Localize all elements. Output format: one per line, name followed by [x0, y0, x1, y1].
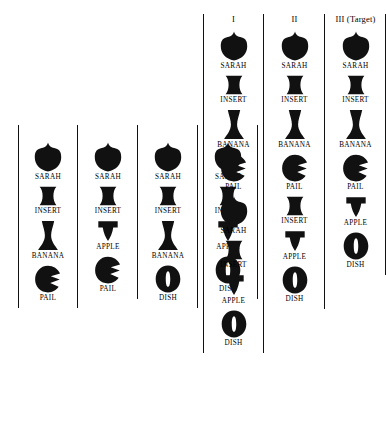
shape-item: APPLE — [91, 220, 125, 252]
shape-item: INSERT — [339, 75, 373, 105]
shape-label: PAIL — [225, 183, 242, 192]
shape-label: INSERT — [281, 96, 308, 105]
cooling-tower-vase-shape — [151, 220, 185, 251]
shape-label: BANANA — [217, 141, 250, 150]
column-items: SARAHINSERTBANANAPAIL — [31, 138, 65, 308]
shape-label: SARAH — [155, 173, 181, 182]
notched-circle-shape — [217, 154, 251, 182]
shape-item: SARAH — [339, 31, 373, 71]
shape-item: BANANA — [151, 220, 185, 261]
shape-label: SARAH — [343, 62, 369, 71]
hourglass-bowtie-shape — [339, 75, 373, 95]
shape-item: SARAH — [151, 142, 185, 182]
shape-item: PAIL — [31, 265, 65, 303]
shape-label: APPLE — [96, 243, 119, 252]
shape-label: APPLE — [222, 297, 245, 306]
notched-circle-shape — [31, 265, 65, 293]
cooling-tower-vase-shape — [278, 109, 312, 140]
shape-label: DISH — [225, 339, 243, 348]
shape-label: INSERT — [95, 207, 122, 216]
shape-label: SARAH — [221, 227, 247, 236]
shape-item: SARAH — [217, 31, 251, 71]
shape-item: DISH — [217, 310, 251, 348]
hourglass-bowtie-shape — [278, 75, 312, 95]
shape-label: APPLE — [344, 219, 367, 228]
shape-column: III (Target)SARAHINSERTBANANAPAILAPPLEDI… — [325, 14, 386, 275]
shape-item: SARAH — [278, 31, 312, 71]
column-header: I — [232, 14, 235, 27]
shape-item: APPLE — [217, 274, 251, 306]
shape-item: PAIL — [217, 154, 251, 192]
column-header: III (Target) — [335, 14, 375, 27]
notched-circle-shape — [91, 256, 125, 284]
shape-item: SARAH — [31, 142, 65, 182]
acorn-shield-shape — [217, 31, 251, 61]
shape-column: SARAHINSERTBANANADISH — [138, 125, 198, 308]
acorn-shield-shape — [151, 142, 185, 172]
shape-column: IISARAHINSERTBANANAPAILINSERTAPPLEDISH — [264, 14, 325, 309]
shape-label: PAIL — [40, 294, 57, 303]
shape-label: SARAH — [282, 62, 308, 71]
hourglass-bowtie-shape — [278, 196, 312, 216]
shape-item: DISH — [339, 232, 373, 270]
acorn-shield-shape — [91, 142, 125, 172]
hourglass-bowtie-shape — [31, 186, 65, 206]
shape-item: INSERT — [278, 75, 312, 105]
shape-label: INSERT — [342, 96, 369, 105]
shape-label: BANANA — [152, 252, 185, 261]
shape-item: INSERT — [91, 186, 125, 216]
column-items: SARAHINSERTAPPLEPAIL — [91, 138, 125, 299]
shape-label: BANANA — [339, 141, 372, 150]
acorn-shield-shape — [339, 31, 373, 61]
shape-label: INSERT — [220, 96, 247, 105]
shape-item: INSERT — [31, 186, 65, 216]
shape-label: APPLE — [283, 253, 306, 262]
shape-item: BANANA — [31, 220, 65, 261]
notched-circle-shape — [339, 154, 373, 182]
slotted-oval-shape — [217, 310, 251, 338]
shape-item: PAIL — [339, 154, 373, 192]
shape-label: INSERT — [220, 261, 247, 270]
shape-item: INSERT — [217, 75, 251, 105]
shape-item: BANANA — [339, 109, 373, 150]
hourglass-bowtie-shape — [91, 186, 125, 206]
shape-item: DISH — [151, 265, 185, 303]
shape-item: BANANA — [278, 109, 312, 150]
acorn-shield-shape — [31, 142, 65, 172]
inverted-funnel-shape — [339, 196, 373, 218]
slotted-oval-shape — [278, 266, 312, 294]
notched-circle-shape — [278, 154, 312, 182]
column-header: II — [291, 14, 297, 27]
hourglass-bowtie-shape — [217, 240, 251, 260]
shape-label: SARAH — [221, 62, 247, 71]
shape-item: APPLE — [339, 196, 373, 228]
cooling-tower-vase-shape — [217, 109, 251, 140]
shape-label: SARAH — [35, 173, 61, 182]
hourglass-bowtie-shape — [151, 186, 185, 206]
column-items: SARAHINSERTBANANAPAILINSERTAPPLEDISH — [278, 27, 312, 309]
shape-item: INSERT — [151, 186, 185, 216]
shape-label: DISH — [286, 295, 304, 304]
right-column-group: ISARAHINSERTBANANAPAILSARAHINSERTAPPLEDI… — [203, 14, 386, 353]
shape-label: INSERT — [35, 207, 62, 216]
column-items: SARAHINSERTBANANAPAILAPPLEDISH — [339, 27, 373, 275]
shape-item: PAIL — [278, 154, 312, 192]
shape-label: PAIL — [347, 183, 364, 192]
shape-label: PAIL — [100, 285, 117, 294]
shape-label: INSERT — [281, 217, 308, 226]
cooling-tower-vase-shape — [31, 220, 65, 251]
cooling-tower-vase-shape — [339, 109, 373, 140]
shape-label: INSERT — [155, 207, 182, 216]
acorn-shield-shape — [278, 31, 312, 61]
inverted-funnel-shape — [278, 230, 312, 252]
shape-item: INSERT — [217, 240, 251, 270]
acorn-shield-shape — [217, 196, 251, 226]
column-items: SARAHINSERTBANANAPAILSARAHINSERTAPPLEDIS… — [217, 27, 251, 353]
shape-item: DISH — [278, 266, 312, 304]
shape-item: APPLE — [278, 230, 312, 262]
hourglass-bowtie-shape — [217, 75, 251, 95]
shape-label: BANANA — [278, 141, 311, 150]
shape-column: SARAHINSERTBANANAPAIL — [18, 125, 78, 308]
shape-label: BANANA — [32, 252, 65, 261]
